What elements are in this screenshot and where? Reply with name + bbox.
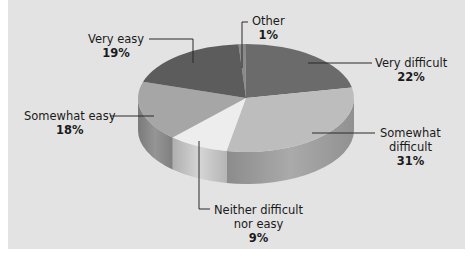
label-neither-pct: 9% bbox=[214, 231, 303, 245]
label-somewhat-easy-pct: 18% bbox=[24, 123, 115, 137]
label-very-difficult-name: Very difficult bbox=[375, 56, 447, 70]
label-very-easy-name: Very easy bbox=[88, 32, 144, 46]
label-somewhat-easy-name: Somewhat easy bbox=[24, 109, 115, 123]
label-very-easy-pct: 19% bbox=[88, 46, 144, 60]
label-somewhat-difficult-line1: Somewhat bbox=[380, 126, 441, 140]
label-somewhat-difficult: Somewhat difficult 31% bbox=[380, 126, 441, 168]
label-somewhat-difficult-line2: difficult bbox=[380, 140, 441, 154]
label-very-difficult-pct: 22% bbox=[375, 70, 447, 84]
label-other-name: Other bbox=[252, 14, 285, 28]
label-neither-line1: Neither difficult bbox=[214, 203, 303, 217]
label-very-easy: Very easy 19% bbox=[88, 32, 144, 60]
label-somewhat-easy: Somewhat easy 18% bbox=[24, 109, 115, 137]
label-very-difficult: Very difficult 22% bbox=[375, 56, 447, 84]
pie-top bbox=[138, 44, 354, 152]
label-other-pct: 1% bbox=[252, 28, 285, 42]
label-somewhat-difficult-pct: 31% bbox=[380, 154, 441, 168]
label-neither-line2: nor easy bbox=[214, 217, 303, 231]
label-other: Other 1% bbox=[252, 14, 285, 42]
label-neither: Neither difficult nor easy 9% bbox=[214, 203, 303, 245]
